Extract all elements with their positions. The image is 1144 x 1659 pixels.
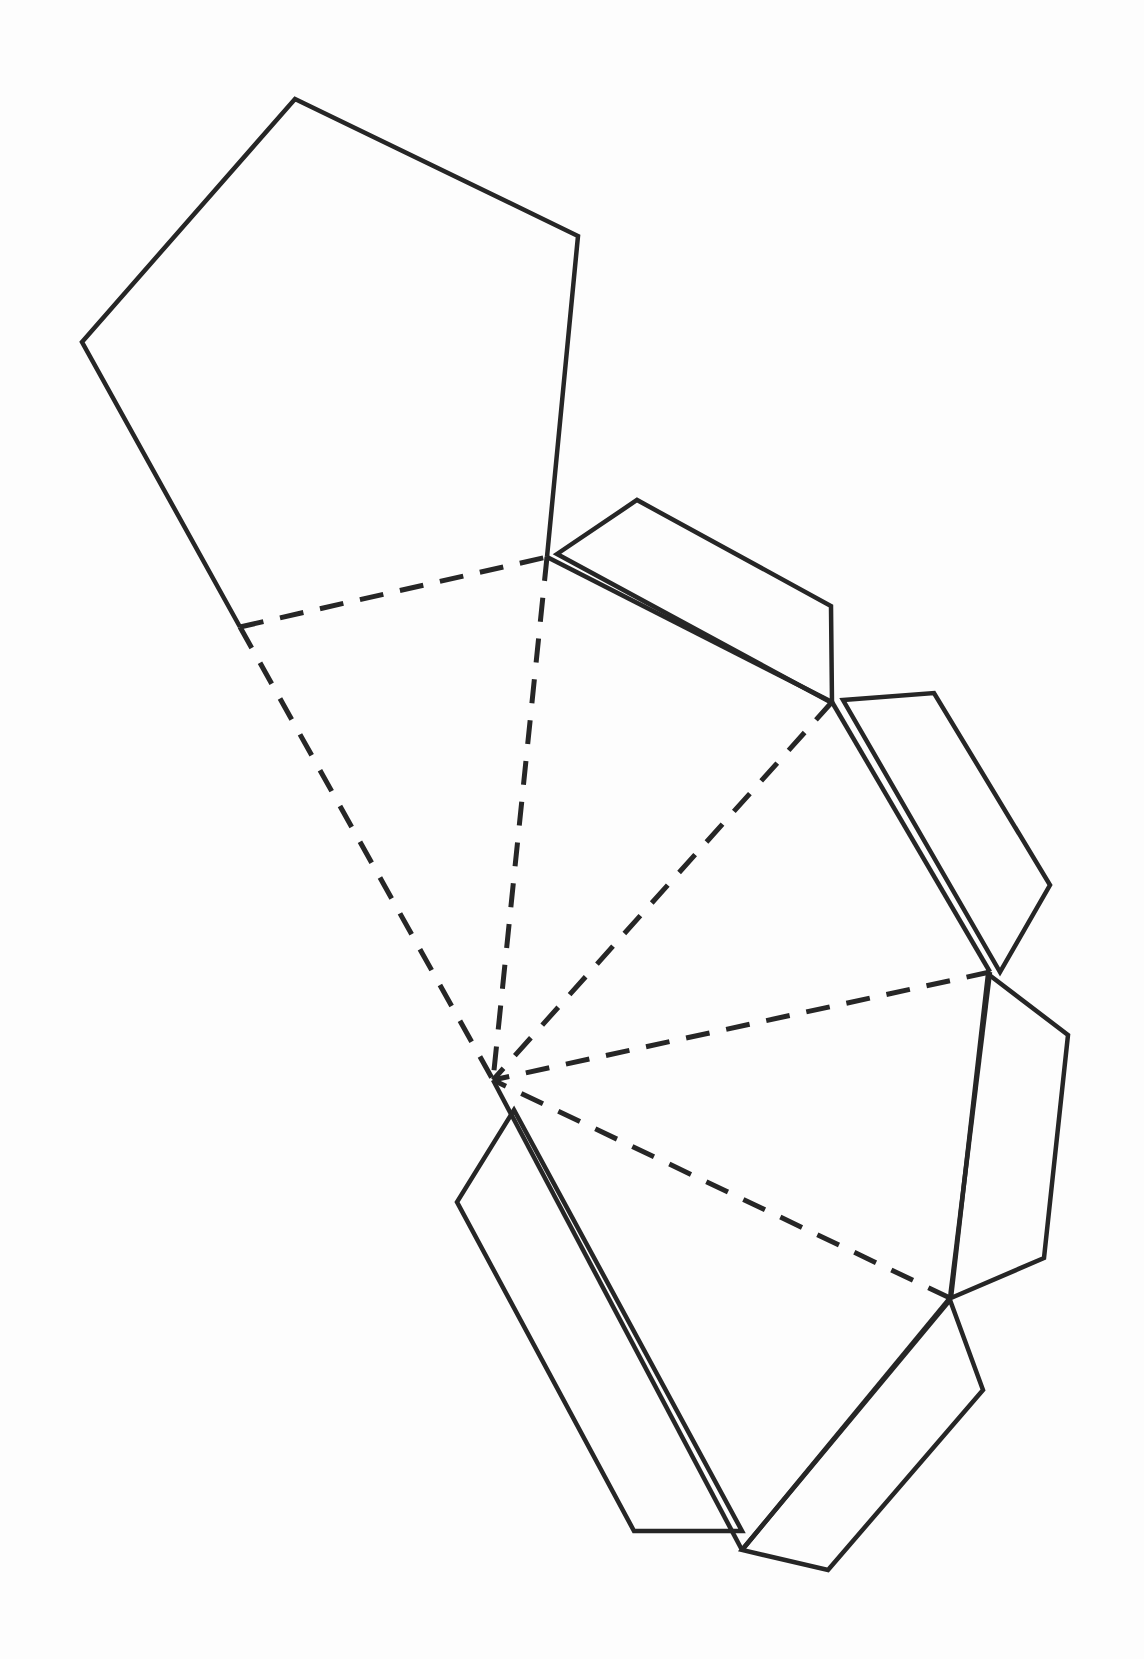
tab-2 [843,693,1050,972]
base-pentagon [82,99,578,627]
outer-edges [493,557,990,1550]
fold-line-2 [240,627,493,1080]
fold-lines [240,557,990,1298]
tab-1 [557,500,832,703]
fold-line-1 [240,557,547,627]
fold-line-5 [493,972,990,1080]
glue-tabs [457,500,1068,1570]
tab-4 [742,1300,983,1570]
face-edge-5 [493,1080,742,1550]
fold-line-3 [493,557,547,1080]
pentagon-outline [82,99,578,627]
tab-3 [951,974,1068,1298]
pyramid-net-svg [0,0,1144,1659]
fold-line-4 [493,702,832,1080]
fold-line-6 [493,1080,950,1298]
